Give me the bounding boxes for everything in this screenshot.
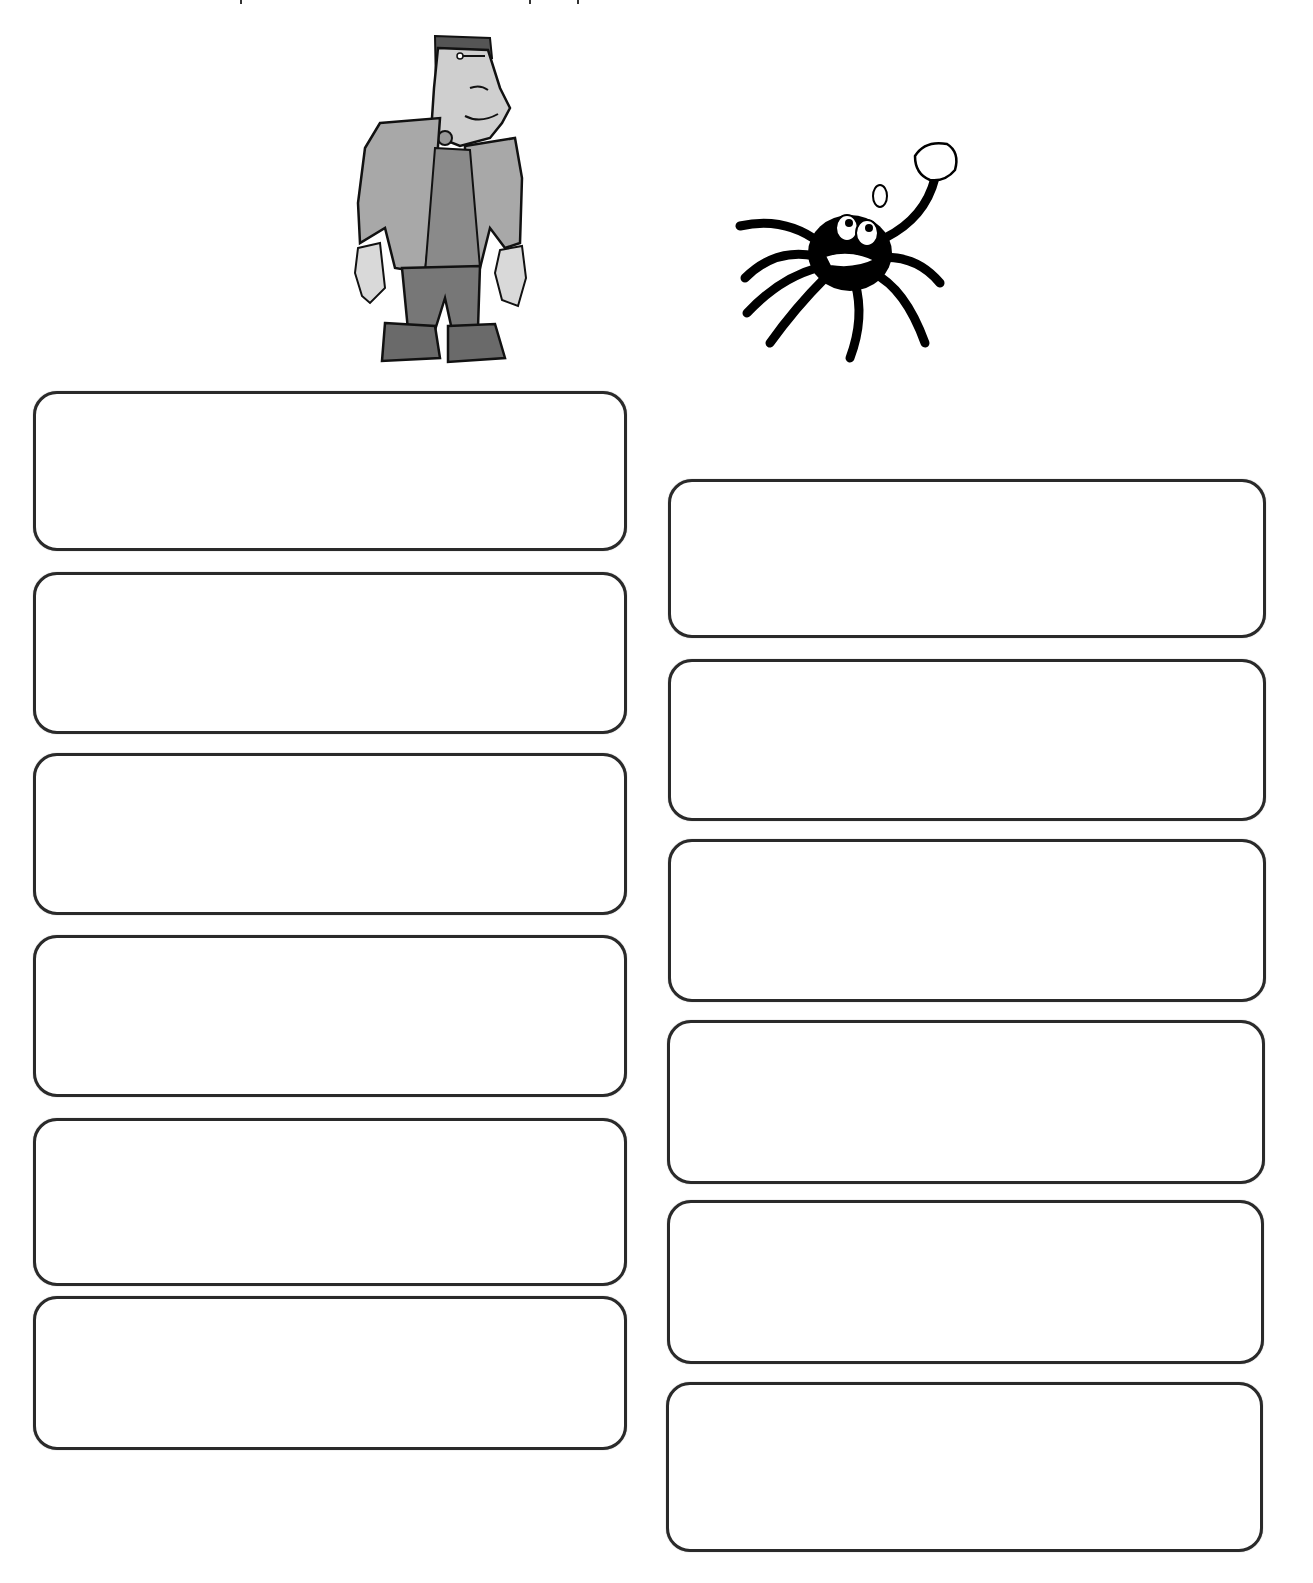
answer-input[interactable] bbox=[670, 1203, 1261, 1361]
frankenstein-answer-box-1[interactable] bbox=[33, 391, 627, 551]
answer-input[interactable] bbox=[670, 1023, 1262, 1181]
cropped-heading-remnant bbox=[0, 0, 1313, 6]
spider-answer-box-2[interactable] bbox=[668, 659, 1266, 821]
answer-input[interactable] bbox=[36, 756, 624, 912]
answer-input[interactable] bbox=[671, 482, 1263, 635]
spider-icon bbox=[725, 138, 970, 366]
spider-answer-box-4[interactable] bbox=[667, 1020, 1265, 1184]
spider-answer-box-5[interactable] bbox=[667, 1200, 1264, 1364]
spider-illustration bbox=[725, 138, 970, 366]
frankenstein-answer-box-2[interactable] bbox=[33, 572, 627, 734]
spider-answer-box-1[interactable] bbox=[668, 479, 1266, 638]
frankenstein-icon bbox=[340, 28, 530, 368]
frankenstein-answer-box-6[interactable] bbox=[33, 1296, 627, 1450]
frankenstein-illustration bbox=[340, 28, 530, 368]
frankenstein-answer-box-4[interactable] bbox=[33, 935, 627, 1097]
answer-input[interactable] bbox=[36, 1299, 624, 1447]
answer-input[interactable] bbox=[36, 938, 624, 1094]
frankenstein-answer-box-3[interactable] bbox=[33, 753, 627, 915]
clip-mark bbox=[577, 0, 579, 4]
answer-input[interactable] bbox=[36, 394, 624, 548]
answer-input[interactable] bbox=[669, 1385, 1260, 1549]
clip-mark bbox=[240, 0, 242, 4]
frankenstein-answer-box-5[interactable] bbox=[33, 1118, 627, 1286]
clip-mark bbox=[529, 0, 531, 4]
answer-input[interactable] bbox=[671, 842, 1263, 999]
answer-input[interactable] bbox=[36, 575, 624, 731]
answer-input[interactable] bbox=[671, 662, 1263, 818]
spider-answer-box-6[interactable] bbox=[666, 1382, 1263, 1552]
answer-input[interactable] bbox=[36, 1121, 624, 1283]
spider-answer-box-3[interactable] bbox=[668, 839, 1266, 1002]
